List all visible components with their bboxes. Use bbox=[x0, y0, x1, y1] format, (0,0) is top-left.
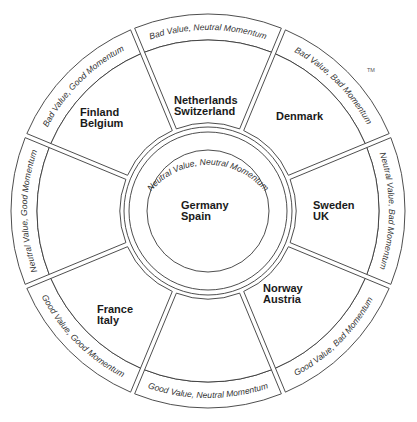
trademark-mark: TM bbox=[367, 67, 375, 73]
segment-country-bottom-left-2: Italy bbox=[97, 314, 120, 326]
value-momentum-wheel: Bad Value, Neutral MomentumNetherlandsSw… bbox=[0, 0, 417, 422]
segment-country-bottom-right-2: Austria bbox=[263, 293, 302, 305]
center-hub: Neutral Value, Neutral Momentum Germany … bbox=[124, 127, 292, 295]
segment-country-top-2: Switzerland bbox=[174, 105, 235, 117]
hub-band-label: Neutral Value, Neutral Momentum bbox=[145, 157, 271, 193]
hub-country-2: Spain bbox=[181, 210, 211, 222]
segment-country-right-2: UK bbox=[313, 210, 329, 222]
segment-country-top-left-2: Belgium bbox=[80, 117, 124, 129]
segment-country-top-right-1: Denmark bbox=[276, 110, 324, 122]
